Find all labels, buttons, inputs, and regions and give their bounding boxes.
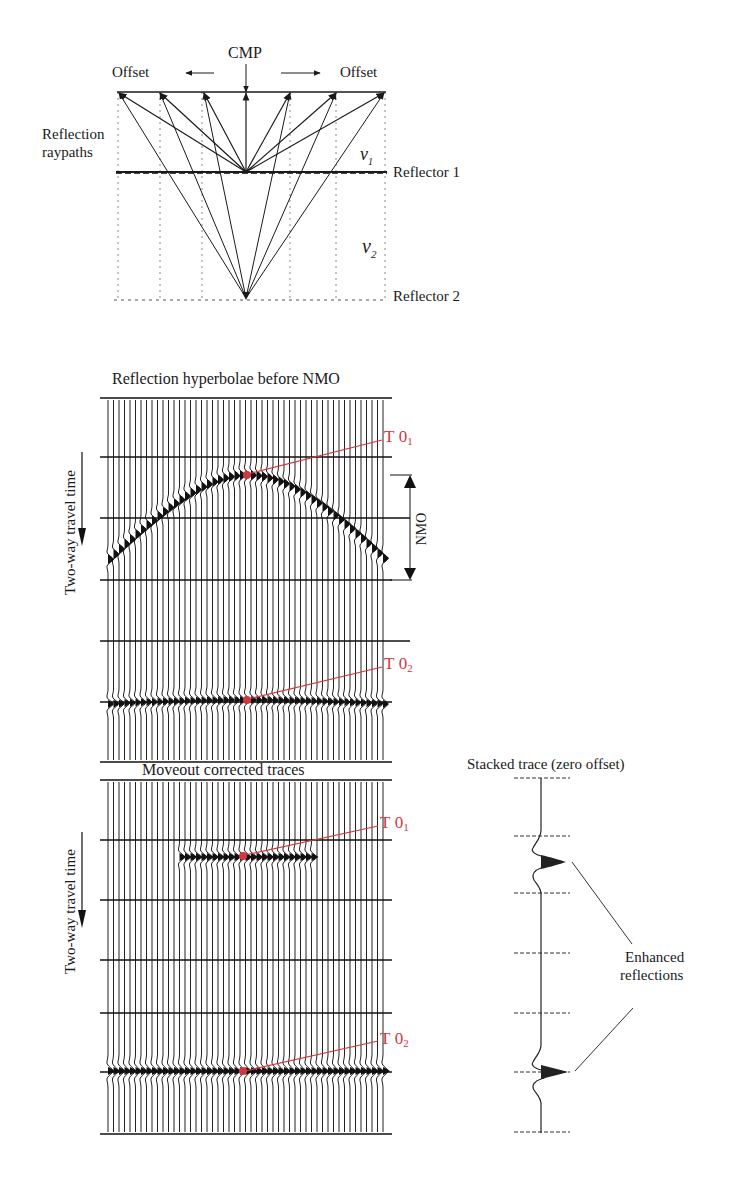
v1-label: v1 bbox=[360, 145, 373, 167]
offset-right-label: Offset bbox=[340, 65, 377, 80]
offset-left-label: Offset bbox=[112, 65, 149, 80]
panel-after-nmo-plot bbox=[78, 780, 392, 1134]
t02-marker bbox=[239, 1067, 247, 1075]
panel-before-nmo-y-axis-label: Two-way travel time bbox=[63, 453, 78, 613]
reflector-2-raypaths bbox=[119, 93, 384, 298]
nmo-bracket bbox=[390, 475, 416, 580]
dotted-verticals bbox=[118, 92, 385, 300]
enhanced-reflections-label-line1: Enhanced bbox=[625, 950, 684, 965]
stacked-trace-waveform bbox=[532, 778, 546, 1133]
t02-marker bbox=[243, 696, 251, 704]
panel-after-nmo-t02-label: T 02 bbox=[380, 1030, 409, 1049]
t01-marker bbox=[243, 471, 251, 479]
raypath-diagram bbox=[114, 64, 387, 300]
reflection-raypaths-label-line1: Reflection bbox=[42, 127, 104, 142]
t01-marker bbox=[239, 852, 247, 860]
cmp-label: CMP bbox=[228, 45, 262, 61]
reflector-1-raypaths bbox=[119, 93, 384, 172]
stacked-trace-title: Stacked trace (zero offset) bbox=[467, 757, 625, 772]
reflection-hyperbola-1 bbox=[108, 470, 389, 564]
panel-before-nmo-t01-label: T 01 bbox=[384, 428, 413, 447]
panel-before-nmo-plot bbox=[78, 398, 416, 762]
stacked-wavelet-2 bbox=[541, 1065, 568, 1079]
enhanced-reflections-label-line2: reflections bbox=[620, 968, 683, 983]
panel-after-nmo-t01-label: T 01 bbox=[380, 814, 409, 833]
stacked-wavelet-1 bbox=[541, 855, 566, 869]
corrected-traces bbox=[107, 782, 388, 1132]
v2-label: v2 bbox=[362, 236, 376, 260]
panel-before-nmo-t02-label: T 02 bbox=[384, 655, 413, 674]
stacked-trace-plot bbox=[514, 778, 633, 1133]
panel-after-nmo-y-axis-label: Two-way travel time bbox=[63, 832, 78, 992]
nmo-label: NMO bbox=[415, 509, 429, 549]
panel-after-nmo-title: Moveout corrected traces bbox=[142, 762, 305, 778]
reflector-2-label: Reflector 2 bbox=[393, 289, 460, 304]
panel-before-nmo-title: Reflection hyperbolae before NMO bbox=[112, 371, 340, 387]
figure-artwork bbox=[0, 0, 730, 1181]
reflector-1-label: Reflector 1 bbox=[393, 165, 460, 180]
reflection-raypaths-label-line2: raypaths bbox=[42, 145, 93, 160]
